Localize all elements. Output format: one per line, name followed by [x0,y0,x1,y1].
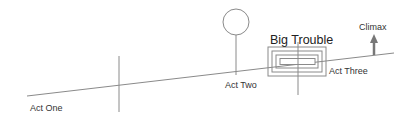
story-structure-diagram: Act One Act Two Big Trouble Act Three Cl… [0,0,415,119]
act-two-label: Act Two [225,80,257,90]
climax-marker [370,34,378,55]
climax-label: Climax [359,22,387,32]
big-trouble-marker [268,42,326,95]
arrow-up-icon [370,34,378,43]
act-one-label: Act One [30,103,63,113]
act-three-label: Act Three [329,66,368,76]
act-two-marker [223,9,249,75]
circle-icon [223,9,249,35]
big-trouble-label: Big Trouble [270,33,333,47]
